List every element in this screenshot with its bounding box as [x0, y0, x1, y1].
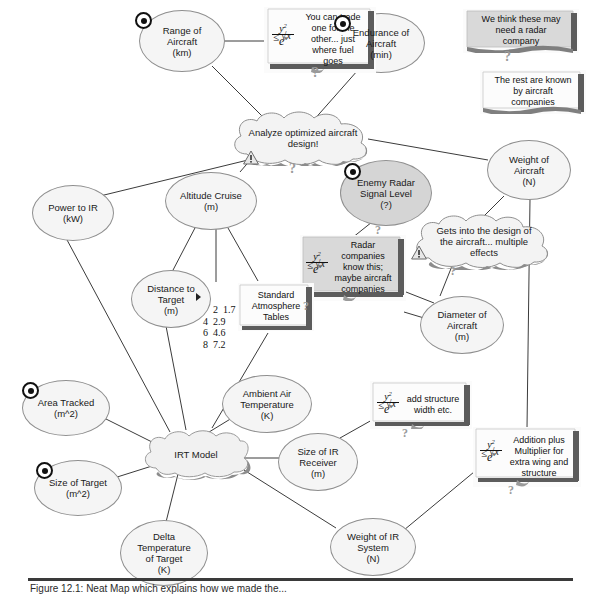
node-weight-of-ir-system[interactable]: Weight of IR System (N) [330, 518, 416, 576]
figure-caption: Figure 12.1: Neat Map which explains how… [30, 583, 575, 597]
node-delta-temperature-of-target[interactable]: Delta Temperature of Target (K) [120, 520, 208, 586]
warning-triangle-icon [243, 150, 259, 165]
question-mark-icon: ? [303, 300, 309, 312]
node-label: Distance to Target (m) [147, 283, 195, 316]
node-label: Size of Target (m^2) [49, 477, 107, 499]
note-text: Radar companies know this; maybe aircraf… [334, 240, 391, 295]
figure-canvas: Range of Aircraft (km) Endurance of Airc… [0, 0, 589, 597]
note-text: Addition plus Multiplier for extra wing … [510, 435, 569, 479]
note-text: We think these may need a radar company [482, 14, 561, 47]
note-known-by-aircraft-companies[interactable]: The rest are known by aircraft companies [480, 70, 586, 114]
note-text: You can trade one for the other... just … [305, 12, 360, 67]
node-label: Power to IR (kW) [48, 202, 98, 224]
node-label: Ambient Air Temperature (K) [240, 388, 293, 421]
node-label: Diameter of Aircraft (m) [437, 309, 486, 342]
question-mark-icon: ? [508, 484, 514, 496]
caption-rule [28, 578, 573, 581]
node-label: Endurance of Aircraft (min) [353, 27, 410, 60]
node-label: Delta Temperature of Target (K) [137, 531, 190, 575]
node-diameter-of-aircraft[interactable]: Diameter of Aircraft (m) [420, 296, 504, 354]
node-label: Analyze optimized aircraft design! [239, 127, 368, 149]
question-mark-icon: ? [504, 50, 511, 64]
note-text: add structure width etc. [407, 394, 460, 416]
cursor-icon [196, 293, 201, 301]
node-power-to-ir[interactable]: Power to IR (kW) [32, 185, 114, 241]
node-label: Size of IR Receiver (m) [297, 446, 338, 479]
note-text: Standard Atmosphere Tables [252, 290, 301, 323]
node-label: Altitude Cruise (m) [180, 190, 242, 212]
question-mark-icon: ? [402, 427, 408, 439]
question-mark-icon: ? [312, 66, 319, 80]
note-radar-companies-know[interactable]: Radar companies know this; maybe aircraf… [300, 235, 406, 301]
target-icon [135, 12, 152, 29]
node-label: Weight of IR System (N) [347, 531, 399, 564]
warning-triangle-icon [411, 245, 427, 260]
node-label: IRT Model [164, 449, 227, 460]
node-label: Weight of Aircraft (N) [509, 154, 549, 187]
note-trade-one-for-other[interactable]: You can trade one for the other... just … [264, 7, 376, 73]
node-label: Area Tracked (m^2) [38, 397, 95, 419]
target-icon [36, 462, 53, 479]
question-mark-icon: ? [450, 265, 456, 277]
node-weight-of-aircraft[interactable]: Weight of Aircraft (N) [487, 140, 571, 200]
atmosphere-values-table: 2 1.7 4 2.9 6 4.6 8 7.2 [203, 281, 236, 362]
target-icon [344, 163, 361, 180]
node-ambient-air-temperature[interactable]: Ambient Air Temperature (K) [222, 375, 312, 433]
note-add-structure-width[interactable]: add structure width etc. y2 ex ≤ √x [370, 381, 472, 429]
node-label: Range of Aircraft (km) [163, 25, 202, 58]
atmosphere-values-text: 2 1.7 4 2.9 6 4.6 8 7.2 [203, 304, 236, 350]
node-irt-model[interactable]: IRT Model [140, 428, 252, 480]
note-text: The rest are known by aircraft companies [494, 75, 571, 108]
node-label: Enemy Radar Signal Level (?) [357, 177, 415, 210]
node-altitude-cruise[interactable]: Altitude Cruise (m) [165, 172, 257, 230]
node-size-of-ir-receiver[interactable]: Size of IR Receiver (m) [278, 433, 358, 491]
question-mark-icon: ? [289, 162, 296, 176]
target-icon [334, 15, 351, 32]
note-need-radar-company[interactable]: We think these may need a radar company [463, 9, 579, 53]
question-mark-icon: ? [375, 224, 381, 236]
node-gets-into-design[interactable]: Gets into the design of the aircraft... … [409, 212, 559, 270]
node-label: Gets into the design of the aircraft... … [426, 225, 541, 258]
note-addition-plus-multiplier[interactable]: Addition plus Multiplier for extra wing … [473, 427, 581, 487]
target-icon [22, 382, 39, 399]
